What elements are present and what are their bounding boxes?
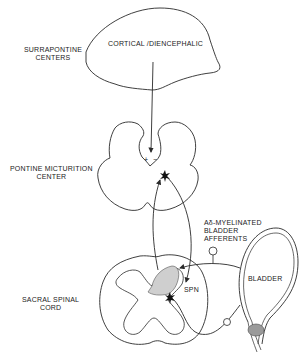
surrapontine-label-line1: SURRAPONTINE: [24, 46, 82, 54]
surrapontine-label-line2: CENTERS: [24, 54, 82, 62]
afferents-label-line2: BLADDER: [204, 227, 262, 235]
sacral-label-line2: CORD: [22, 304, 79, 312]
pons-outline: [98, 122, 198, 210]
bladder-label: BLADDER: [248, 275, 282, 283]
minus-sign: −: [153, 156, 157, 164]
afferents-label-line3: AFFERENTS: [204, 235, 262, 243]
pontine-label-line2: CENTER: [10, 173, 93, 181]
surrapontine-label: SURRAPONTINE CENTERS: [24, 46, 82, 62]
efferent-ganglion-cell: [224, 319, 231, 326]
spinal-cord-outline: [100, 255, 208, 345]
sacral-label-line1: SACRAL SPINAL: [22, 296, 79, 304]
cortical-descending-pathway: [151, 62, 153, 152]
sacral-label: SACRAL SPINAL CORD: [22, 296, 79, 312]
pontine-label: PONTINE MICTURITION CENTER: [10, 165, 93, 181]
urethral-sphincter: [248, 324, 264, 336]
pontine-label-line1: PONTINE MICTURITION: [10, 165, 93, 173]
afferent-ganglion-cell: [209, 247, 217, 255]
pmc-neuron-star: [160, 170, 170, 182]
afferents-label: Aδ-MYELINATED BLADDER AFFERENTS: [204, 219, 262, 243]
afferents-label-line1: Aδ-MYELINATED: [204, 219, 262, 227]
spn-label: SPN: [184, 286, 199, 294]
dorsal-horn-shading: [148, 266, 179, 295]
cortical-label: CORTICAL /DIENCEPHALIC: [108, 40, 203, 48]
plus-sign: +: [144, 156, 148, 164]
